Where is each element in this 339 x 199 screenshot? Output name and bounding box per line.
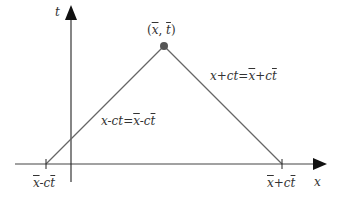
left-tick-t: t xyxy=(50,176,55,190)
left-characteristic-equation: x-ct=x-ct xyxy=(101,115,155,127)
x-axis-label-text: x xyxy=(314,175,321,189)
right-eq-rhs-mid: +c xyxy=(255,69,272,83)
left-eq-rhs-t: t xyxy=(151,114,156,128)
x-axis-label: x xyxy=(314,176,321,188)
t-axis-arrow-icon xyxy=(65,5,77,20)
right-eq-rhs-t: t xyxy=(272,69,277,83)
left-characteristic-line xyxy=(46,46,164,164)
right-tick-x: x xyxy=(267,176,274,190)
characteristics-diagram: t x (x, t) x+ct=x+ct x-ct=x-ct x-ct x+ct xyxy=(0,0,339,199)
point-marker xyxy=(160,42,168,50)
point-label: (x, t) xyxy=(147,24,176,36)
right-tick-t: t xyxy=(291,176,296,190)
right-characteristic-line xyxy=(164,46,282,164)
point-label-close: ) xyxy=(171,23,176,37)
left-tick-label: x-ct xyxy=(33,177,55,189)
left-eq-rhs-mid: -c xyxy=(140,114,151,128)
x-axis-arrow-icon xyxy=(313,158,327,170)
t-axis-label-text: t xyxy=(55,5,60,19)
point-label-sep: , xyxy=(158,23,166,37)
right-tick-label: x+ct xyxy=(267,177,295,189)
left-eq-lhs: x-ct= xyxy=(101,114,133,128)
right-tick-mid: +c xyxy=(274,176,291,190)
t-axis-label: t xyxy=(55,6,60,18)
left-tick-mid: -c xyxy=(40,176,51,190)
right-characteristic-equation: x+ct=x+ct xyxy=(210,70,277,82)
right-eq-lhs: x+ct= xyxy=(210,69,248,83)
